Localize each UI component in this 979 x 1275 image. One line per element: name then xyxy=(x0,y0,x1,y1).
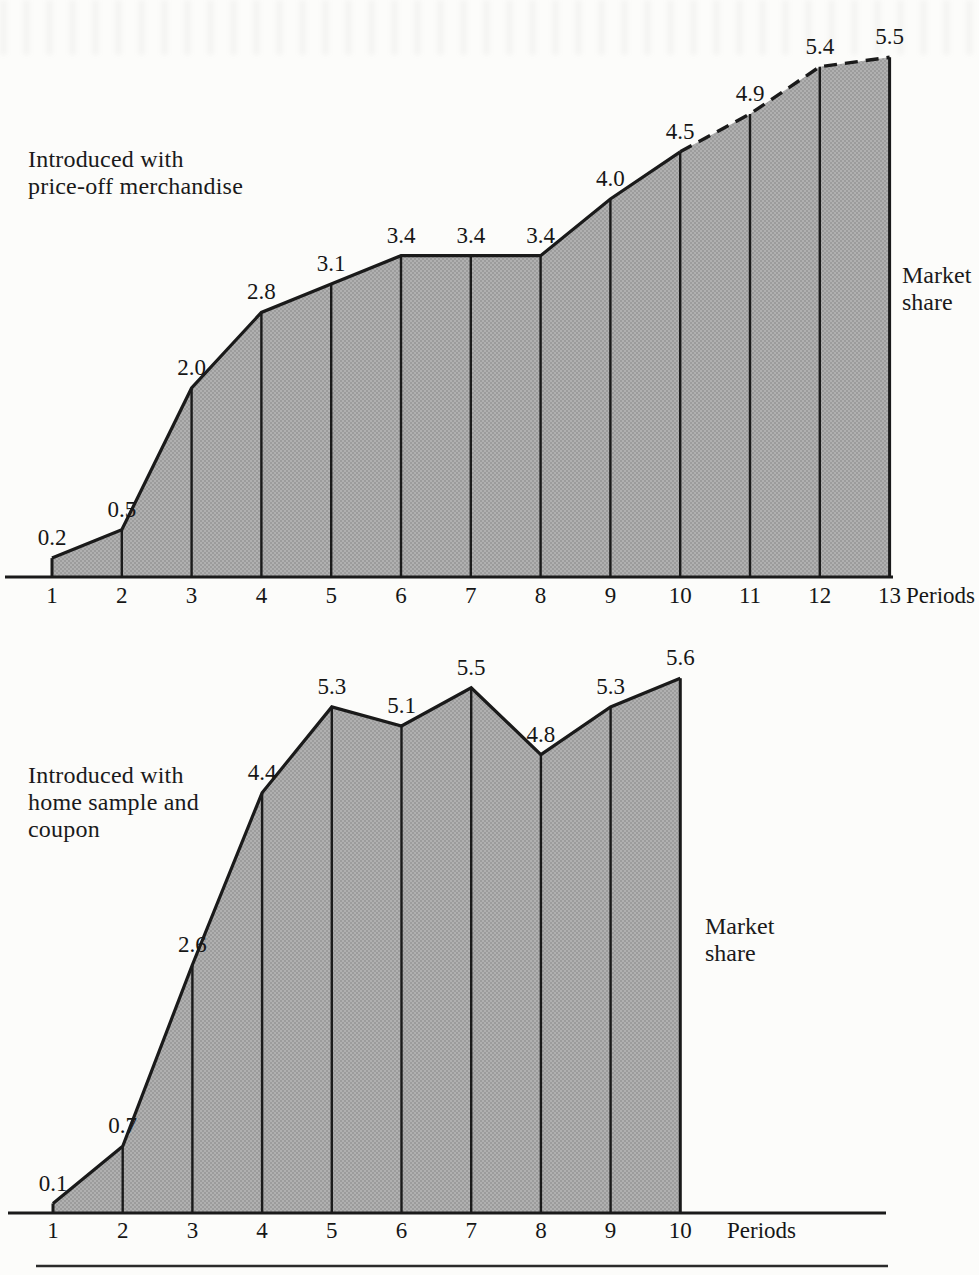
x-tick-label: 9 xyxy=(605,1218,617,1243)
value-label: 3.4 xyxy=(387,223,416,248)
value-label: 5.6 xyxy=(666,645,695,670)
x-tick-label: 5 xyxy=(325,583,337,608)
x-tick-label: 2 xyxy=(117,1218,129,1243)
value-label: 0.5 xyxy=(107,497,136,522)
chart2-annotation: Introduced with home sample and coupon xyxy=(28,762,199,843)
chart-1: 0.20.52.02.83.13.43.43.44.04.54.95.45.51… xyxy=(5,24,975,608)
x-tick-label: 12 xyxy=(808,583,831,608)
x-tick-label: 13 xyxy=(878,583,901,608)
value-label: 3.4 xyxy=(456,223,485,248)
x-axis-title: Periods xyxy=(727,1218,796,1243)
x-tick-label: 2 xyxy=(116,583,128,608)
value-label: 5.1 xyxy=(387,693,416,718)
value-label: 0.2 xyxy=(38,525,67,550)
x-tick-label: 9 xyxy=(605,583,617,608)
value-label: 3.4 xyxy=(526,223,555,248)
value-label: 0.1 xyxy=(39,1171,68,1196)
x-tick-label: 10 xyxy=(669,583,692,608)
x-tick-label: 6 xyxy=(396,1218,408,1243)
chart1-ylabel-line1: Market xyxy=(902,262,971,289)
chart1-annotation-line2: price-off merchandise xyxy=(28,173,243,200)
chart1-y-axis-label: Market share xyxy=(902,262,971,316)
x-tick-label: 8 xyxy=(535,583,547,608)
chart1-annotation-line1: Introduced with xyxy=(28,146,243,173)
x-tick-label: 3 xyxy=(187,1218,199,1243)
x-tick-label: 3 xyxy=(186,583,198,608)
x-tick-label: 1 xyxy=(47,1218,59,1243)
value-label: 4.4 xyxy=(248,760,277,785)
x-tick-label: 4 xyxy=(256,1218,268,1243)
scanned-figure-page: 0.20.52.02.83.13.43.43.44.04.54.95.45.51… xyxy=(0,0,979,1275)
chart1-ylabel-line2: share xyxy=(902,289,971,316)
x-tick-label: 5 xyxy=(326,1218,338,1243)
x-tick-label: 6 xyxy=(395,583,407,608)
value-label: 4.9 xyxy=(736,81,765,106)
value-label: 5.3 xyxy=(596,674,625,699)
value-label: 5.4 xyxy=(805,34,834,59)
x-tick-label: 11 xyxy=(739,583,761,608)
x-tick-label: 8 xyxy=(535,1218,547,1243)
chart2-annotation-line1: Introduced with xyxy=(28,762,199,789)
value-label: 5.5 xyxy=(875,24,904,49)
x-tick-label: 4 xyxy=(256,583,268,608)
x-tick-label: 7 xyxy=(465,583,477,608)
value-label: 5.5 xyxy=(457,655,486,680)
value-label: 4.8 xyxy=(527,722,556,747)
chart2-y-axis-label: Market share xyxy=(705,913,774,967)
value-label: 2.0 xyxy=(177,355,206,380)
chart2-annotation-line3: coupon xyxy=(28,816,199,843)
chart2-ylabel-line1: Market xyxy=(705,913,774,940)
value-label: 2.8 xyxy=(247,279,276,304)
area-fill xyxy=(53,678,680,1213)
x-tick-label: 10 xyxy=(669,1218,692,1243)
x-tick-label: 7 xyxy=(465,1218,477,1243)
chart1-annotation: Introduced with price-off merchandise xyxy=(28,146,243,200)
value-label: 0.7 xyxy=(108,1113,137,1138)
value-label: 4.0 xyxy=(596,166,625,191)
chart2-annotation-line2: home sample and xyxy=(28,789,199,816)
value-label: 4.5 xyxy=(666,119,695,144)
value-label: 3.1 xyxy=(317,251,346,276)
chart2-ylabel-line2: share xyxy=(705,940,774,967)
x-tick-label: 1 xyxy=(46,583,58,608)
value-label: 5.3 xyxy=(317,674,346,699)
value-label: 2.6 xyxy=(178,932,207,957)
x-axis-title: Periods xyxy=(906,583,975,608)
